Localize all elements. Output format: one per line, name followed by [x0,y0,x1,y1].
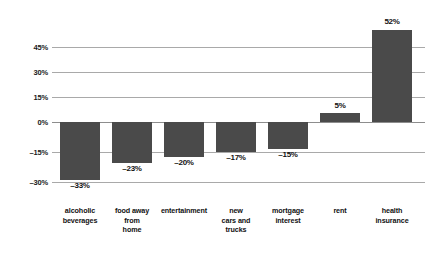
bar-food-away-from-home[interactable] [112,122,152,163]
bar-value-food-away-from-home: –23% [102,164,162,174]
bar-entertainment[interactable] [164,122,204,157]
category-label-health-insurance: health insurance [361,206,423,225]
bar-value-entertainment: –20% [154,158,214,168]
bar-health-insurance[interactable] [372,30,412,122]
bar-value-alcoholic-beverages: –33% [50,181,110,191]
ytick-label-minus-30: –30% [4,178,48,187]
bar-alcoholic-beverages[interactable] [60,122,100,180]
bar-value-rent: 5% [310,101,370,111]
bar-rent[interactable] [320,113,360,122]
bar-value-mortgage-interest: –15% [258,150,318,160]
gridline-30 [52,72,425,73]
ytick-label-0: 0% [4,118,48,127]
bar-new-cars-and-trucks[interactable] [216,122,256,152]
bar-value-health-insurance: 52% [362,17,422,27]
bar-mortgage-interest[interactable] [268,122,308,149]
gridline-15 [52,97,425,98]
bar-chart: 45% 30% 15% 0% –15% –30% –33% –23% –20% … [0,0,444,255]
ytick-label-15: 15% [4,93,48,102]
bar-value-new-cars-and-trucks: –17% [206,153,266,163]
ytick-label-45: 45% [4,43,48,52]
ytick-label-minus-15: –15% [4,148,48,157]
gridline-45 [52,47,425,48]
ytick-label-30: 30% [4,68,48,77]
